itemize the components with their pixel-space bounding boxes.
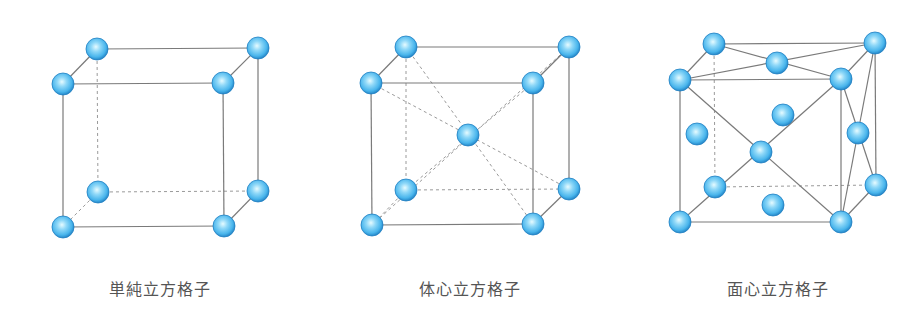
atom-sphere <box>247 180 269 202</box>
atom-sphere <box>830 211 852 233</box>
edge <box>63 226 224 227</box>
atom-sphere <box>361 214 383 236</box>
edge <box>97 48 258 49</box>
atom-sphere <box>87 181 109 203</box>
atom-sphere <box>558 178 580 200</box>
atom-sphere <box>212 72 234 94</box>
edge <box>680 79 841 80</box>
atom-sphere <box>52 73 74 95</box>
face-centered-cubic-lattice <box>669 32 887 233</box>
atom-sphere <box>558 36 580 58</box>
atom-sphere <box>457 124 479 146</box>
atom-sphere <box>847 122 869 144</box>
atom-sphere <box>703 33 725 55</box>
hidden-edge <box>715 185 876 187</box>
atom-sphere <box>864 32 886 54</box>
hidden-edge <box>714 44 715 187</box>
atom-sphere <box>522 72 544 94</box>
hidden-edge <box>406 189 569 190</box>
atom-sphere <box>395 36 417 58</box>
atom-sphere <box>247 37 269 59</box>
atom-sphere <box>704 176 726 198</box>
crystal-lattice-diagram: 単純立方格子 体心立方格子 面心立方格子 <box>0 0 923 323</box>
hidden-edge <box>97 49 98 192</box>
atom-sphere <box>686 123 708 145</box>
atom-sphere <box>360 72 382 94</box>
atom-sphere <box>522 213 544 235</box>
edge <box>875 43 876 185</box>
atom-sphere <box>865 174 887 196</box>
hidden-edge <box>98 191 258 192</box>
edge <box>371 83 372 225</box>
edge <box>223 83 224 226</box>
atom-sphere <box>762 194 784 216</box>
face-centered-cubic-label: 面心立方格子 <box>678 276 878 300</box>
atom-sphere <box>52 216 74 238</box>
lattice-illustrations <box>0 0 923 323</box>
atom-sphere <box>750 141 772 163</box>
simple-cubic-lattice <box>52 37 269 238</box>
simple-cubic-label: 単純立方格子 <box>60 276 260 300</box>
edge <box>63 83 223 84</box>
atom-sphere <box>830 68 852 90</box>
edge <box>372 224 533 225</box>
body-centered-cubic-label: 体心立方格子 <box>370 276 570 300</box>
atom-sphere <box>213 215 235 237</box>
atom-sphere <box>669 69 691 91</box>
body-centered-cubic-lattice <box>360 36 580 236</box>
atom-sphere <box>669 211 691 233</box>
atom-sphere <box>772 104 794 126</box>
atom-sphere <box>766 52 788 74</box>
atom-sphere <box>86 38 108 60</box>
atom-sphere <box>395 179 417 201</box>
edge <box>714 43 875 44</box>
